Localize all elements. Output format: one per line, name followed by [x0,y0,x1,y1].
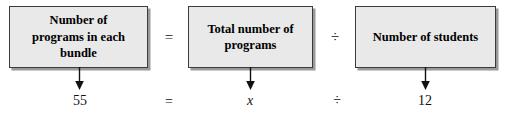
equation-flow-diagram: Number of programs in each bundle = Tota… [0,0,506,118]
down-arrow-icon [420,67,431,91]
down-arrow-icon [74,67,85,91]
value-total-programs: x [230,94,270,108]
value-programs-per-bundle: 55 [60,94,100,108]
box-total-programs: Total number of programs [188,6,313,68]
down-arrow-icon [245,67,256,91]
operator-equals-top: = [150,30,188,45]
box-number-of-students: Number of students [355,6,496,68]
operator-divide-bottom: ÷ [318,94,356,108]
value-number-of-students: 12 [405,94,445,108]
box-number-of-students-label: Number of students [373,29,478,46]
box-programs-per-bundle-label: Number of programs in each bundle [32,12,125,62]
operator-divide-top: ÷ [315,30,355,45]
box-programs-per-bundle: Number of programs in each bundle [9,6,148,68]
box-total-programs-label: Total number of programs [207,21,293,54]
operator-equals-bottom: = [150,95,188,109]
